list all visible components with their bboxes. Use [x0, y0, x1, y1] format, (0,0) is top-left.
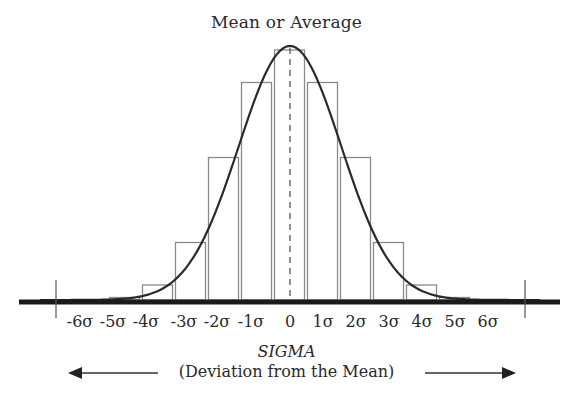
tick-label: -1σ: [238, 312, 265, 331]
tick-label: 6σ: [477, 312, 498, 331]
axis-title: SIGMA: [0, 342, 573, 361]
histogram-bar: [308, 83, 338, 301]
tick-label: 2σ: [345, 312, 366, 331]
tick-label: 3σ: [378, 312, 399, 331]
tick-label: -2σ: [204, 312, 231, 331]
axis-subtitle: (Deviation from the Mean): [0, 362, 573, 381]
tick-label: -5σ: [100, 312, 127, 331]
tick-label: 0: [285, 312, 295, 331]
tick-label: -6σ: [67, 312, 94, 331]
histogram-bar: [374, 243, 404, 301]
tick-label: -3σ: [171, 312, 198, 331]
histogram-bar: [407, 285, 437, 300]
histogram-bar: [176, 243, 206, 301]
histogram-bar: [143, 285, 173, 300]
histogram-bar: [341, 158, 371, 301]
tick-label: -4σ: [133, 312, 160, 331]
histogram-bar: [242, 83, 272, 301]
chart-title: Mean or Average: [0, 12, 573, 32]
tick-label: 5σ: [444, 312, 465, 331]
histogram-bar: [209, 158, 239, 301]
tick-label: 4σ: [411, 312, 432, 331]
tick-label: 1σ: [312, 312, 333, 331]
